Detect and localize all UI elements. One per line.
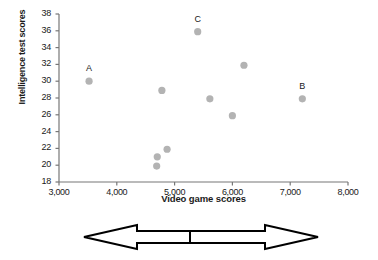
data-point	[206, 95, 213, 102]
data-point-label-c: C	[190, 14, 206, 24]
data-point	[154, 153, 161, 160]
y-axis-tick-label: 36	[25, 25, 51, 35]
gamer-scale-annotation: Poor gamer Good gamer	[0, 205, 378, 260]
plot-canvas	[0, 0, 378, 205]
data-point	[85, 78, 92, 85]
y-axis-tick-label: 38	[25, 8, 51, 18]
data-point	[240, 62, 247, 69]
y-axis-tick-label: 24	[25, 126, 51, 136]
data-point	[158, 87, 165, 94]
left-arrow-shape	[84, 225, 190, 249]
data-point	[194, 28, 201, 35]
data-point-label-a: A	[81, 63, 97, 73]
data-point	[229, 112, 236, 119]
data-point-label-b: B	[294, 81, 310, 91]
y-axis-tick-label: 18	[25, 176, 51, 186]
double-arrow-icon	[0, 205, 378, 260]
y-axis-tick-label: 20	[25, 159, 51, 169]
y-axis-tick-label: 32	[25, 58, 51, 68]
data-point	[153, 162, 160, 169]
y-axis-tick-label: 30	[25, 75, 51, 85]
data-point	[163, 146, 170, 153]
data-point-group	[85, 28, 305, 170]
y-axis-tick-label: 26	[25, 109, 51, 119]
y-axis-tick-label: 28	[25, 92, 51, 102]
data-point	[299, 95, 306, 102]
y-axis-tick-label: 22	[25, 142, 51, 152]
scatter-plot-figure: Intelligence test scores 182022242628303…	[0, 0, 378, 260]
y-axis-tick-label: 34	[25, 42, 51, 52]
x-axis-title: Video game scores	[59, 193, 348, 204]
plot-area: Intelligence test scores 182022242628303…	[0, 0, 378, 205]
right-arrow-shape	[190, 225, 318, 249]
